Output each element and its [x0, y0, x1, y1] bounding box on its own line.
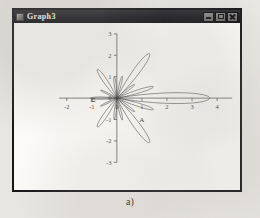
svg-text:3: 3	[190, 103, 193, 110]
close-button[interactable]	[227, 12, 238, 22]
svg-text:1: 1	[140, 103, 143, 110]
figure-caption: a)	[0, 196, 260, 207]
graph-window[interactable]: Graph3 1 -2-101234-3-2-10123 AB	[12, 8, 242, 192]
svg-text:4: 4	[215, 103, 219, 110]
svg-text:0: 0	[108, 94, 111, 101]
plot-canvas[interactable]: -2-101234-3-2-10123 AB	[14, 24, 240, 190]
svg-text:A: A	[139, 116, 145, 124]
svg-text:3: 3	[108, 30, 111, 37]
maximize-button[interactable]	[215, 12, 226, 22]
svg-text:B: B	[89, 97, 97, 102]
svg-text:2: 2	[165, 103, 168, 110]
window-controls	[203, 12, 239, 22]
plot-axes	[59, 34, 232, 162]
svg-text:-1: -1	[106, 116, 111, 123]
svg-text:-2: -2	[64, 103, 69, 110]
svg-text:-1: -1	[89, 103, 94, 110]
minimize-button[interactable]	[203, 12, 214, 22]
graph-window-icon	[16, 13, 24, 21]
radiation-pattern-plot: -2-101234-3-2-10123 AB	[14, 24, 240, 190]
window-title: Graph3	[27, 11, 56, 22]
svg-text:0: 0	[115, 103, 118, 110]
svg-text:-3: -3	[106, 159, 111, 166]
svg-text:2: 2	[108, 52, 111, 59]
window-titlebar[interactable]: Graph3	[14, 10, 240, 23]
svg-text:-2: -2	[106, 137, 111, 144]
svg-text:1: 1	[108, 73, 111, 80]
